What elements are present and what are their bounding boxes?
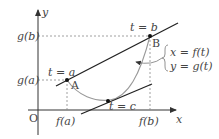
equation-brace	[162, 45, 168, 71]
tick-g-a: g(a)	[17, 74, 39, 87]
tick-f-b: f(b)	[138, 115, 159, 128]
point-label-b: B	[152, 37, 160, 50]
tick-g-b: g(b)	[17, 30, 40, 43]
equation-y: y = g(t)	[169, 60, 212, 73]
origin-label: O	[29, 112, 38, 125]
param-label-t-b: t = b	[130, 21, 158, 34]
param-label-t-a: t = a	[48, 66, 75, 79]
y-axis-label: y	[41, 6, 49, 19]
tick-f-a: f(a)	[55, 115, 75, 128]
equation-pointer-arrow	[136, 58, 162, 63]
parametric-mean-value-diagram: y x O g(b) g(a) f(a) f(b) t = b B t = a …	[0, 0, 219, 139]
param-label-t-c: t = c	[109, 100, 136, 113]
equation-x: x = f(t)	[170, 46, 210, 59]
point-label-a: A	[70, 79, 80, 92]
x-axis-label: x	[176, 113, 183, 126]
